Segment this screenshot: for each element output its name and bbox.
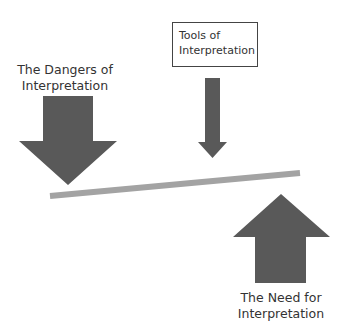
need-up-arrow-icon [233, 194, 330, 283]
tools-down-arrow-icon [198, 78, 227, 158]
dangers-label-line2: Interpretation [10, 78, 120, 94]
dangers-down-arrow-icon [19, 96, 117, 185]
need-label: The Need for Interpretation [225, 290, 337, 322]
need-label-line2: Interpretation [225, 306, 337, 322]
dangers-label-line1: The Dangers of [10, 62, 120, 78]
need-label-line1: The Need for [225, 290, 337, 306]
tools-label-line1: Tools of [179, 28, 251, 43]
balance-beam [50, 173, 300, 196]
tools-label-line2: Interpretation [179, 43, 251, 58]
dangers-label: The Dangers of Interpretation [10, 62, 120, 94]
tools-of-interpretation-box: Tools of Interpretation [172, 22, 258, 67]
